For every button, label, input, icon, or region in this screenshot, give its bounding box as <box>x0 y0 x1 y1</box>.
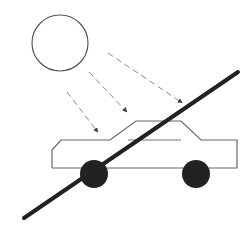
car-wheel <box>182 160 210 188</box>
sun-ray-arrow <box>89 72 126 111</box>
sun-ray-arrow <box>67 92 97 131</box>
sun-icon <box>32 15 88 71</box>
sun-ray-arrow <box>108 53 181 102</box>
car-body-outline <box>52 121 237 168</box>
sun-rays <box>67 53 181 131</box>
sun-car-diagram <box>0 0 252 230</box>
